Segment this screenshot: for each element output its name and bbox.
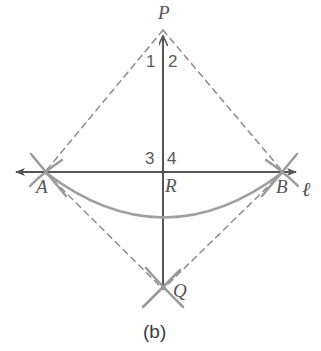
angle-label-2: 2 (168, 53, 177, 70)
point-label-B: B (276, 177, 288, 196)
segment-AQ (45, 172, 163, 289)
point-label-A: A (36, 177, 48, 196)
point-label-Q: Q (173, 281, 187, 300)
segment-PB (163, 30, 283, 172)
point-label-P: P (158, 3, 170, 22)
angle-label-4: 4 (167, 150, 176, 167)
figure-caption: (b) (143, 322, 166, 341)
segment-BQ (163, 172, 283, 289)
angle-label-1: 1 (146, 53, 155, 70)
geometry-diagram (0, 0, 321, 351)
point-label-R: R (165, 176, 177, 195)
angle-label-3: 3 (145, 150, 154, 167)
line-label-l: ℓ (302, 179, 310, 199)
figure-root: P A B R Q 1 2 3 4 ℓ (b) (0, 0, 321, 351)
